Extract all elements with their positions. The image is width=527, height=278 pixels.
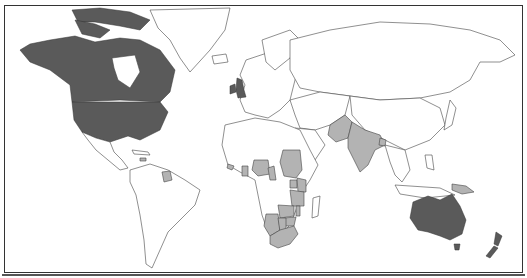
region-sudan: [280, 150, 302, 178]
region-ireland: [230, 84, 236, 94]
region-papua-new-guinea: [452, 184, 474, 194]
region-zambia: [278, 205, 294, 218]
region-australia: [410, 194, 466, 240]
region-ghana: [242, 166, 248, 176]
region-iceland: [212, 54, 228, 64]
region-cuba: [132, 150, 150, 155]
region-philippines: [425, 155, 434, 170]
region-new-zealand-north: [494, 232, 502, 246]
region-southeast-asia: [385, 145, 410, 182]
region-indonesia: [395, 185, 455, 198]
region-canada: [20, 36, 175, 102]
region-kenya: [297, 178, 306, 192]
region-madagascar: [312, 196, 320, 218]
region-jamaica: [140, 158, 146, 161]
region-tasmania: [454, 244, 460, 250]
region-guyana: [162, 171, 172, 182]
region-japan: [444, 100, 456, 130]
region-uganda: [290, 180, 297, 188]
world-map: [0, 0, 527, 278]
region-russia: [290, 22, 515, 100]
region-new-zealand-south: [486, 246, 498, 258]
region-malawi: [296, 206, 300, 216]
region-tanzania: [290, 190, 304, 206]
